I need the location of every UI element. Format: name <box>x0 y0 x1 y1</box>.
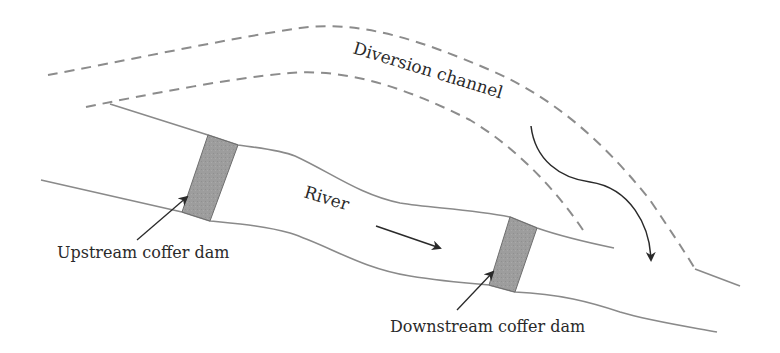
upstream-coffer-dam <box>182 135 238 221</box>
downstream-coffer-dam <box>489 217 537 292</box>
downstream-dam-label: Downstream coffer dam <box>390 317 585 336</box>
river-label: River <box>302 182 353 215</box>
diagram-svg: Diversion channel River Upstream coffer … <box>0 0 780 353</box>
downstream-dam-pointer-arrow <box>457 272 493 310</box>
diversion-channel-outer-exit-bank <box>695 269 740 286</box>
upstream-dam-label: Upstream coffer dam <box>57 243 229 262</box>
river-flow-arrow <box>376 226 440 248</box>
diversion-channel-label: Diversion channel <box>351 38 506 103</box>
diagram-canvas: Diversion channel River Upstream coffer … <box>0 0 780 353</box>
diversion-flow-arrow <box>531 126 651 260</box>
